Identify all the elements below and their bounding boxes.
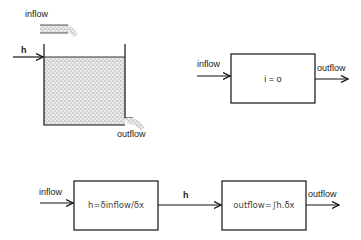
integral-equation: outflow=∫h.δx <box>233 200 294 210</box>
tank-wall-right-outlet <box>125 44 133 118</box>
derivative-equation: h=δinflow/δx <box>88 200 144 210</box>
simple-inflow-label: inflow <box>197 59 221 69</box>
chain-h-label: h <box>183 190 189 200</box>
chain-outflow-label: outflow <box>308 189 337 199</box>
water-fill <box>44 57 125 125</box>
inflow-pipe-icon <box>40 25 78 37</box>
tank-inflow-label: inflow <box>25 9 49 19</box>
tank-outflow-label: outflow <box>117 129 146 139</box>
tank-h-label: h <box>21 45 27 55</box>
chain-inflow-label: inflow <box>39 187 63 197</box>
simple-equation: i = o <box>264 74 281 84</box>
diagram-canvas: inflow h outflow inflow i = o outflow in… <box>0 0 361 240</box>
simple-outflow-label: outflow <box>317 63 346 73</box>
simple-model: inflow i = o outflow <box>197 54 348 103</box>
tank-illustration: inflow h outflow <box>13 9 146 139</box>
chain-model: inflow h=δinflow/δx h outflow=∫h.δx outf… <box>39 181 339 230</box>
